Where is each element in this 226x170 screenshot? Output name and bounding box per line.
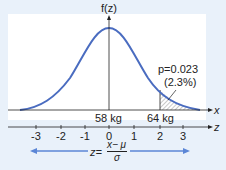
- z-tick-label: 1: [131, 131, 137, 142]
- percent-annotation: (2.3%): [164, 77, 196, 88]
- mean-label: 58 kg: [95, 113, 122, 124]
- z-formula: z= x− μ σ: [90, 140, 130, 164]
- z-axis-label: z: [214, 122, 220, 133]
- z-tick-label: -2: [56, 131, 66, 142]
- z-tick-label: -1: [80, 131, 90, 142]
- x-axis-label: x: [214, 105, 220, 116]
- formula-numerator: x− μ: [107, 140, 126, 150]
- formula-lhs: z=: [90, 147, 102, 158]
- formula-denominator: σ: [114, 153, 120, 163]
- z-tick-label: 3: [180, 131, 186, 142]
- shaded-tail-area: [160, 90, 200, 110]
- z-tick-label: 2: [157, 131, 163, 142]
- y-axis-label: f(z): [101, 3, 117, 14]
- threshold-label: 64 kg: [147, 113, 174, 124]
- z-tick-label: -3: [31, 131, 41, 142]
- p-annotation: p=0.023: [158, 64, 198, 75]
